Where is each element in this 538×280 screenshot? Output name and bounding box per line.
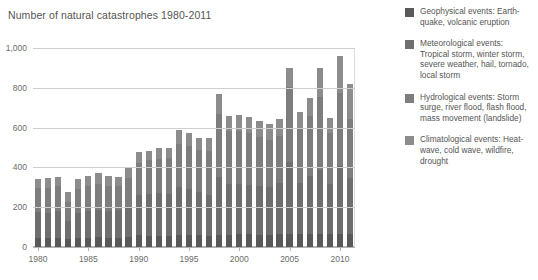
bar-segment: [115, 238, 121, 247]
bar-segment: [176, 144, 182, 188]
bar-segment: [297, 128, 303, 184]
bar-segment: [85, 211, 91, 238]
bar-segment: [196, 138, 202, 150]
bar-segment: [276, 234, 282, 247]
bar-2007: [307, 98, 313, 247]
bar-segment: [297, 234, 303, 247]
legend-label: Meteorological events:Tropical storm, wi…: [420, 38, 529, 80]
bar-segment: [216, 235, 222, 247]
y-axis-tick-label: 400: [13, 162, 27, 172]
bar-segment: [246, 133, 252, 186]
bar-chart: 02004006008001,0001980198519901995200020…: [0, 38, 360, 280]
bar-segment: [226, 184, 232, 235]
bar-1990: [136, 151, 142, 247]
bar-segment: [327, 184, 333, 234]
x-axis-tick-label: 2010: [330, 254, 349, 264]
x-axis-tick-label: 1990: [129, 254, 148, 264]
bar-1999: [226, 116, 232, 247]
bar-segment: [125, 167, 131, 177]
bar-segment: [136, 235, 142, 247]
grid-line: [33, 207, 355, 208]
legend-item-3[interactable]: Hydrological events: Stormsurge, river f…: [405, 92, 538, 124]
bar-segment: [236, 234, 242, 247]
bar-segment: [146, 236, 152, 247]
x-axis-tick-label: 2000: [230, 254, 249, 264]
bar-segment: [256, 186, 262, 235]
bar-segment: [115, 210, 121, 238]
bar-segment: [266, 187, 272, 235]
bar-1998: [216, 94, 222, 247]
bar-1993: [166, 148, 172, 248]
bar-segment: [307, 176, 313, 234]
legend-item-1[interactable]: Geophysical events: Earth-quake, volcani…: [405, 6, 538, 27]
legend-swatch-icon: [405, 136, 414, 145]
bar-segment: [35, 212, 41, 238]
bar-segment: [55, 177, 61, 186]
grid-line: [33, 48, 355, 49]
bar-1992: [156, 148, 162, 248]
bar-segment: [327, 234, 333, 247]
bar-segment: [307, 98, 313, 116]
y-axis-tick-label: 1,000: [6, 43, 27, 53]
bar-2001: [246, 117, 252, 247]
bar-segment: [156, 159, 162, 193]
bar-segment: [75, 179, 81, 189]
bar-segment: [337, 166, 343, 234]
bar-segment: [327, 118, 333, 133]
bar-segment: [45, 188, 51, 213]
x-axis-tick-mark: [88, 247, 89, 251]
bar-1983: [65, 192, 71, 247]
chart-legend: Geophysical events: Earth-quake, volcani…: [405, 6, 538, 177]
bar-segment: [286, 68, 292, 87]
bar-segment: [266, 235, 272, 247]
bar-segment: [317, 234, 323, 247]
bar-segment: [105, 176, 111, 186]
bar-segment: [256, 235, 262, 247]
bar-1997: [206, 138, 212, 247]
bar-segment: [35, 188, 41, 212]
bar-segment: [176, 130, 182, 144]
legend-swatch-icon: [405, 8, 414, 17]
bar-2008: [317, 68, 323, 247]
legend-item-4[interactable]: Climatological events: Heat-wave, cold w…: [405, 134, 538, 166]
bar-segment: [136, 152, 142, 164]
bar-1991: [146, 151, 152, 248]
bar-segment: [156, 193, 162, 236]
x-axis-tick-mark: [38, 247, 39, 251]
bar-2011: [347, 84, 353, 247]
bar-segment: [125, 207, 131, 238]
page-title: Number of natural catastrophes 1980-2011: [8, 9, 211, 21]
bar-segment: [136, 195, 142, 235]
bar-segment: [276, 136, 282, 184]
bar-1984: [75, 179, 81, 247]
bar-segment: [95, 173, 101, 183]
bar-segment: [347, 84, 353, 119]
bar-segment: [186, 235, 192, 247]
bar-segment: [45, 213, 51, 238]
bar-segment: [286, 87, 292, 163]
bar-segment: [246, 185, 252, 234]
bar-segment: [206, 195, 212, 236]
bar-segment: [347, 234, 353, 247]
bar-segment: [166, 236, 172, 247]
bar-segment: [125, 237, 131, 247]
bar-segment: [317, 97, 323, 171]
bar-segment: [166, 148, 172, 159]
bar-segment: [65, 221, 71, 240]
bar-segment: [317, 170, 323, 234]
bar-segment: [266, 140, 272, 188]
bar-segment: [196, 150, 202, 193]
bar-segment: [35, 238, 41, 247]
legend-item-2[interactable]: Meteorological events:Tropical storm, wi…: [405, 38, 538, 80]
bar-segment: [125, 178, 131, 207]
bar-segment: [216, 94, 222, 114]
y-axis-tick-label: 0: [22, 242, 27, 252]
bar-segment: [166, 158, 172, 194]
bar-segment: [256, 137, 262, 187]
x-axis-tick-label: 1985: [79, 254, 98, 264]
bar-1986: [95, 173, 101, 247]
bar-segment: [317, 68, 323, 97]
bar-2010: [337, 56, 343, 247]
bar-segment: [206, 151, 212, 196]
legend-swatch-icon: [405, 40, 414, 49]
